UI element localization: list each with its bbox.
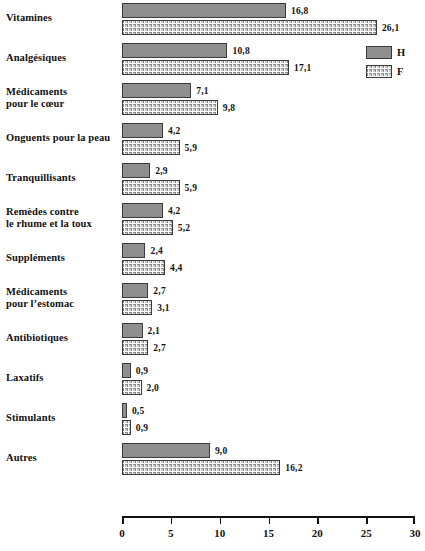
x-axis-tick: [171, 516, 173, 524]
bar-f: [122, 220, 173, 235]
bar-f: [122, 420, 131, 435]
bar-value-label-f: 2,0: [147, 383, 159, 393]
x-axis-tick-label: 20: [312, 527, 323, 539]
bar-f: [122, 260, 165, 275]
x-axis-tick: [366, 516, 368, 524]
x-axis-tick-label: 0: [119, 527, 125, 539]
x-axis-tick: [317, 516, 319, 524]
bar-value-label-f: 26,1: [382, 23, 399, 33]
legend-label-h: H: [397, 47, 405, 58]
x-axis-tick-label: 25: [361, 527, 372, 539]
category-label: Tranquillisants: [6, 172, 76, 185]
bar-value-label-h: 2,7: [153, 286, 165, 296]
bar-value-label-f: 5,2: [178, 223, 190, 233]
category-label: Onguents pour la peau: [6, 132, 110, 145]
category-label: Laxatifs: [6, 372, 44, 385]
bar-f: [122, 340, 148, 355]
bar-value-label-h: 4,2: [168, 206, 180, 216]
bar-value-label-f: 4,4: [170, 263, 182, 273]
bar-h: [122, 363, 131, 378]
category-label: Remèdes contre le rhume et la toux: [6, 206, 92, 231]
bar-f: [122, 460, 280, 475]
category-label: Suppléments: [6, 252, 65, 265]
bar-value-label-f: 0,9: [136, 423, 148, 433]
bar-value-label-h: 16,8: [291, 6, 308, 16]
bar-value-label-h: 7,1: [196, 86, 208, 96]
bar-value-label-f: 9,8: [223, 103, 235, 113]
bar-value-label-h: 10,8: [232, 46, 249, 56]
x-axis-tick: [269, 516, 271, 524]
bar-f: [122, 380, 142, 395]
legend-label-f: F: [397, 66, 403, 77]
category-label: Vitamines: [6, 12, 52, 25]
bar-h: [122, 323, 143, 338]
bar-value-label-f: 2,7: [153, 343, 165, 353]
bar-h: [122, 283, 148, 298]
x-axis-tick: [413, 516, 415, 524]
legend-item-h: H: [366, 46, 422, 59]
bar-value-label-f: 17,1: [294, 63, 311, 73]
bar-value-label-h: 2,9: [155, 166, 167, 176]
bar-value-label-h: 9,0: [215, 446, 227, 456]
bar-value-label-h: 0,9: [136, 366, 148, 376]
bar-f: [122, 300, 152, 315]
bar-h: [122, 203, 163, 218]
bar-h: [122, 83, 191, 98]
bar-value-label-f: 3,1: [157, 303, 169, 313]
bar-h: [122, 163, 150, 178]
x-axis-tick-label: 10: [214, 527, 225, 539]
legend-swatch-h-icon: [366, 46, 392, 59]
category-label: Antibiotiques: [6, 332, 68, 345]
category-label: Stimulants: [6, 412, 55, 425]
category-label: Autres: [6, 452, 37, 465]
bar-h: [122, 43, 227, 58]
legend-item-f: F: [366, 65, 422, 78]
bar-h: [122, 3, 286, 18]
legend-swatch-f-icon: [366, 65, 392, 78]
x-axis-tick-label: 30: [410, 527, 421, 539]
chart-legend: H F: [366, 46, 422, 84]
bar-f: [122, 60, 289, 75]
bar-h: [122, 403, 127, 418]
bar-f: [122, 100, 218, 115]
bar-f: [122, 20, 377, 35]
x-axis-tick: [220, 516, 222, 524]
x-axis-tick: [122, 516, 124, 524]
category-label: Analgésiques: [6, 52, 66, 65]
bar-f: [122, 140, 180, 155]
bar-h: [122, 443, 210, 458]
bar-value-label-f: 5,9: [185, 143, 197, 153]
bar-value-label-h: 2,4: [150, 246, 162, 256]
category-label: Médicaments pour l’estomac: [6, 286, 74, 311]
bar-h: [122, 243, 145, 258]
bar-value-label-f: 16,2: [285, 463, 302, 473]
bar-chart: 16,826,1Vitamines10,817,1Analgésiques7,1…: [0, 0, 425, 551]
x-axis-tick-label: 5: [168, 527, 174, 539]
bar-value-label-h: 2,1: [148, 326, 160, 336]
bar-value-label-f: 5,9: [185, 183, 197, 193]
bar-f: [122, 180, 180, 195]
bar-value-label-h: 0,5: [132, 406, 144, 416]
category-label: Médicaments pour le cœur: [6, 86, 67, 111]
x-axis-tick-label: 15: [263, 527, 274, 539]
bar-value-label-h: 4,2: [168, 126, 180, 136]
bar-h: [122, 123, 163, 138]
